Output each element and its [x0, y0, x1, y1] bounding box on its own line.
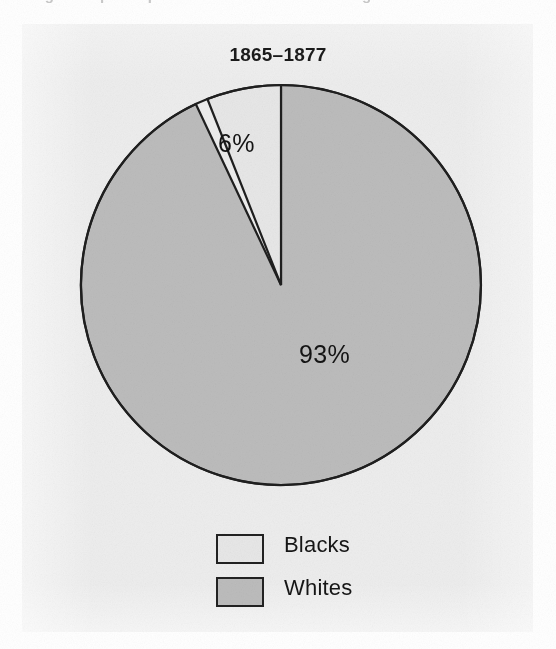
legend: Blacks Whites [216, 532, 446, 618]
pie-label-whites: 93% [299, 340, 350, 369]
legend-swatch-whites [216, 577, 264, 607]
legend-item-blacks: Blacks [216, 532, 446, 575]
legend-item-whites: Whites [216, 575, 446, 618]
legend-label-whites: Whites [284, 575, 352, 601]
pie-chart-figure: age and participation in the reconstruct… [0, 0, 556, 649]
legend-swatch-blacks [216, 534, 264, 564]
legend-label-blacks: Blacks [284, 532, 350, 558]
pie-label-blacks: 6% [218, 129, 255, 158]
